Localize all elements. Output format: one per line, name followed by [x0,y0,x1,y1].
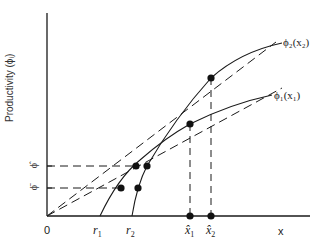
point-phi2-at-phihat [143,162,150,169]
r2-subscript: 2 [131,230,135,239]
y-axis-label: Productivity (ϕᵢ) [4,54,15,122]
x-tick-label-x1-hat: x̂1 [185,224,194,239]
x2-hat-subscript: 2 [211,230,215,239]
r1-subscript: 1 [98,230,102,239]
x-tick-label-r1: r1 [93,224,102,239]
tangent-ray-phi2 [47,42,276,216]
point-x1-hat [186,212,193,219]
x-axis-label: x [278,226,284,237]
curve-phi2 [132,43,282,216]
point-phi1-at-phihat [132,162,139,169]
y-tick-label-phihat: ϕ̂ [28,163,39,168]
point-phi1-tangency [186,120,193,127]
x-tick-label-x2-hat: x̂2 [206,224,215,239]
point-phi2-tangency [207,74,214,81]
x1-hat-subscript: 1 [190,230,194,239]
curve-label-phi1: ϕ₁(x₁) [274,89,300,101]
point-x2-hat [207,212,214,219]
x-tick-label-r2: r2 [126,224,135,239]
productivity-diagram [0,0,326,243]
origin-label: 0 [44,225,50,236]
tangent-ray-phi1 [47,88,282,216]
point-phi1-at-phibar [117,184,124,191]
y-tick-label-phibar: ϕ̄ [28,185,39,190]
curve-label-phi2: ϕ₂(x₂) [283,36,309,48]
point-phi2-at-phibar [134,184,141,191]
